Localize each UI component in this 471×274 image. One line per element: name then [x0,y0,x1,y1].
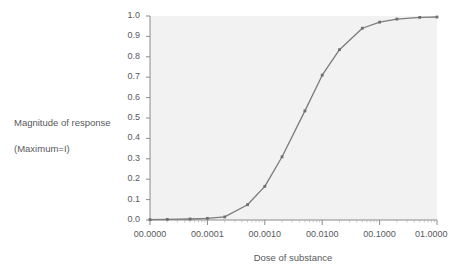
data-point-marker [263,185,266,188]
data-point-marker [149,218,152,221]
x-tick-label: 00.0100 [292,229,352,239]
y-tick-label: 0.9 [114,30,140,40]
y-tick-label: 1.0 [114,10,140,20]
data-point-marker [338,48,341,51]
y-tick-label: 0.8 [114,51,140,61]
x-tick-marks [150,220,437,225]
x-tick-label: 00.0010 [235,229,295,239]
plot-background [150,16,437,220]
y-tick-label: 0.2 [114,173,140,183]
data-point-marker [304,109,307,112]
x-tick-label: 01.0000 [415,229,461,239]
data-point-marker [395,18,398,21]
y-tick-label: 0.3 [114,153,140,163]
y-tick-label: 0.4 [114,132,140,142]
y-tick-label: 0.7 [114,71,140,81]
data-point-marker [223,216,226,219]
x-axis-title: Dose of substance [148,252,438,263]
x-tick-label: 00.0000 [120,229,180,239]
y-tick-label: 0.1 [114,194,140,204]
data-point-marker [189,218,192,221]
data-point-marker [436,16,439,19]
x-tick-label: 00.1000 [350,229,410,239]
y-axis-title-line-1: Magnitude of response [14,116,126,129]
y-axis-title-line-2: (Maximum=I) [14,142,126,155]
data-point-marker [321,74,324,77]
data-point-marker [206,217,209,220]
y-tick-label: 0.6 [114,92,140,102]
y-axis-title: Magnitude of response (Maximum=I) [14,103,126,168]
x-tick-label: 00.0001 [177,229,237,239]
y-tick-label: 0.5 [114,112,140,122]
y-tick-marks [146,16,150,220]
data-point-marker [166,218,169,221]
data-point-marker [361,27,364,30]
data-point-marker [378,21,381,24]
data-point-marker [246,203,249,206]
data-point-marker [281,155,284,158]
y-tick-label: 0.0 [114,214,140,224]
data-point-marker [418,16,421,19]
